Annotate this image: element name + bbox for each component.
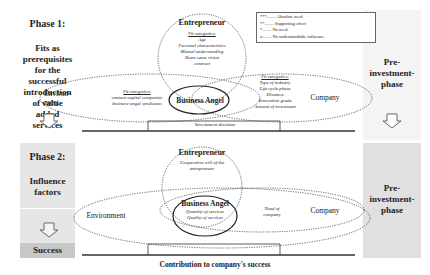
environment-item: venture-capital companies — [103, 95, 171, 101]
environment-title: Environment — [76, 211, 136, 220]
business-angel-item: Quality of services — [175, 215, 235, 221]
company-item: Amount of investment — [245, 104, 305, 110]
business-angel-item: Quantity of services — [175, 209, 235, 215]
company-item: Need of company — [257, 206, 287, 217]
entrepreneur-item: Share same vision — [160, 55, 244, 61]
environment-item: business-angel syndicates — [103, 101, 171, 107]
entrepreneur-item: Age — [160, 37, 244, 43]
entrepreneur-item: Mutual understanding — [160, 49, 244, 55]
company-item: Life cycle phase — [245, 86, 305, 92]
entrepreneur-item: contract — [160, 61, 244, 67]
entrepreneur-title: Entrepreneur — [170, 18, 234, 27]
company-item: Innovation grade — [245, 98, 305, 104]
company-item: Distance — [245, 92, 305, 98]
entrepreneur-item: Personal characteristics — [160, 43, 244, 49]
company-title: Company — [300, 206, 350, 215]
entrepreneur-item: Cooperative will of the entrepreneur — [172, 160, 232, 171]
entrepreneur-title: Entrepreneur — [170, 148, 234, 157]
environment-title: Environ-ment — [44, 89, 74, 107]
company-fit-header: Fit categories: — [245, 74, 305, 80]
business-angel-title: Business Angel — [175, 199, 235, 208]
environment-fit-header: Fit categories: — [103, 89, 171, 95]
investment-decision-label: Investment decision — [150, 122, 280, 127]
business-angel-title: Business Angel — [170, 96, 230, 105]
company-item: Type of industry — [245, 80, 305, 86]
company-title: Company — [300, 93, 350, 102]
contribution-label: Contribution to company's success — [150, 260, 280, 269]
entrepreneur-fit-header: Fit categories: — [160, 31, 244, 37]
